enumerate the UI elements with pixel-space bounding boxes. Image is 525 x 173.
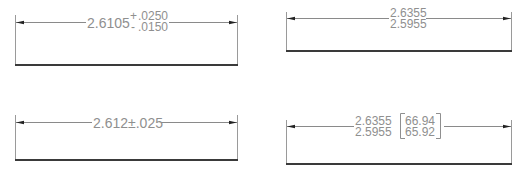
arrowhead-left-icon <box>16 121 24 124</box>
arrowhead-left-icon <box>16 21 24 24</box>
arrowhead-right-icon <box>229 121 237 124</box>
bracket-right-icon <box>436 114 441 139</box>
panel-deviation-tolerance: 2.6105 + .0250 - .0150 <box>15 9 238 66</box>
alt-lower-limit: 65.92 <box>405 125 435 139</box>
arrowhead-left-icon <box>287 17 295 20</box>
arrowhead-right-icon <box>503 125 511 128</box>
lower-limit: 2.5955 <box>355 125 392 139</box>
panel-symmetric-tolerance: 2.612±.025 <box>15 115 238 162</box>
symmetric-tolerance-value: 2.612±.025 <box>93 115 163 131</box>
arrowhead-left-icon <box>287 125 295 128</box>
lower-limit: 2.5955 <box>390 17 427 31</box>
panel-limit-dimension: 2.6355 2.5955 <box>286 6 512 52</box>
tolerance-dimension-diagram: 2.6105 + .0250 - .0150 2.6355 2.5955 2.6… <box>0 0 525 173</box>
arrowhead-right-icon <box>229 21 237 24</box>
nominal-value: 2.6105 <box>87 15 130 31</box>
arrowhead-right-icon <box>503 17 511 20</box>
lower-deviation: .0150 <box>138 20 168 34</box>
panel-dual-dimension-limits: 2.6355 2.5955 66.94 65.92 <box>286 114 512 166</box>
lower-sign: - <box>131 20 135 34</box>
